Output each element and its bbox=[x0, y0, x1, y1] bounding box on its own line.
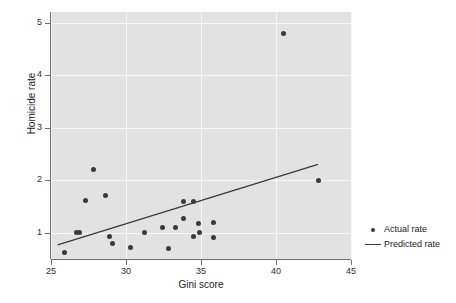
x-tick bbox=[276, 260, 277, 265]
x-tick bbox=[126, 260, 127, 265]
legend-item-actual-rate: Actual rate bbox=[362, 222, 454, 237]
data-point bbox=[62, 250, 67, 255]
data-point bbox=[316, 178, 321, 183]
y-tick-label: 2 bbox=[28, 175, 42, 184]
data-point bbox=[110, 241, 115, 246]
data-point bbox=[103, 193, 108, 198]
data-point bbox=[107, 234, 112, 239]
gridline-vertical bbox=[51, 12, 52, 259]
y-tick bbox=[45, 75, 50, 76]
data-point bbox=[181, 199, 186, 204]
y-axis-title: Homicide rate bbox=[26, 64, 37, 144]
data-point bbox=[211, 235, 216, 240]
gridline-vertical bbox=[276, 12, 277, 259]
data-point bbox=[173, 225, 178, 230]
data-point bbox=[181, 216, 186, 221]
legend-item-predicted-rate: Predicted rate bbox=[362, 237, 454, 252]
x-axis-title: Gini score bbox=[51, 279, 351, 290]
gridline-vertical bbox=[201, 12, 202, 259]
scatter-chart: 12345 2530354045 Homicide rate Gini scor… bbox=[0, 0, 456, 303]
y-tick bbox=[45, 128, 50, 129]
data-point bbox=[160, 225, 165, 230]
data-point bbox=[166, 246, 171, 251]
x-tick-label: 35 bbox=[186, 267, 216, 276]
data-point bbox=[281, 31, 286, 36]
x-tick bbox=[201, 260, 202, 265]
y-tick bbox=[45, 233, 50, 234]
y-tick bbox=[45, 23, 50, 24]
line-marker-icon bbox=[362, 244, 384, 245]
gridline-vertical bbox=[351, 12, 352, 259]
gridline-vertical bbox=[126, 12, 127, 259]
data-point bbox=[128, 245, 133, 250]
data-point bbox=[91, 167, 96, 172]
data-point bbox=[142, 230, 147, 235]
x-tick-label: 45 bbox=[336, 267, 366, 276]
y-tick-label: 5 bbox=[28, 18, 42, 27]
y-tick bbox=[45, 180, 50, 181]
data-point bbox=[211, 220, 216, 225]
x-tick bbox=[351, 260, 352, 265]
legend-label-predicted-rate: Predicted rate bbox=[384, 240, 440, 249]
plot-area bbox=[51, 12, 351, 259]
x-tick-label: 30 bbox=[111, 267, 141, 276]
x-tick bbox=[51, 260, 52, 265]
dot-marker-icon bbox=[362, 228, 384, 232]
x-tick-label: 40 bbox=[261, 267, 291, 276]
legend: Actual rate Predicted rate bbox=[362, 222, 454, 252]
y-axis-line bbox=[50, 12, 51, 259]
data-point bbox=[77, 230, 82, 235]
y-tick-label: 1 bbox=[28, 228, 42, 237]
data-point bbox=[191, 234, 196, 239]
data-point bbox=[191, 199, 196, 204]
data-point bbox=[196, 221, 201, 226]
x-tick-label: 25 bbox=[36, 267, 66, 276]
data-point bbox=[83, 198, 88, 203]
legend-label-actual-rate: Actual rate bbox=[384, 225, 427, 234]
